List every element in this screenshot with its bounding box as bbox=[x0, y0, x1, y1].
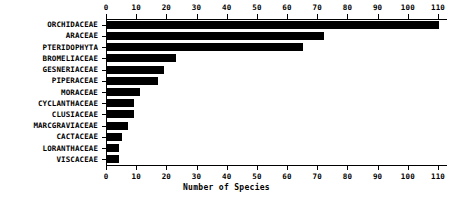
x-tick-label-top-100: 100 bbox=[401, 3, 415, 12]
x-tick-label-bottom-40: 40 bbox=[222, 172, 231, 181]
bar-moraceae bbox=[107, 88, 140, 96]
category-tick-cyclanthaceae bbox=[102, 103, 106, 104]
bar-chart: 0102030405060708090100110 ORCHIDACEAEARA… bbox=[0, 0, 453, 199]
x-tick-label-bottom-50: 50 bbox=[252, 172, 261, 181]
x-tick-mark-bottom-30 bbox=[197, 165, 198, 170]
x-tick-mark-bottom-90 bbox=[378, 165, 379, 170]
x-tick-label-top-70: 70 bbox=[313, 3, 322, 12]
category-tick-araceae bbox=[102, 36, 106, 37]
x-tick-label-top-10: 10 bbox=[131, 3, 140, 12]
bar-cactaceae bbox=[107, 133, 122, 141]
bar-marcgraviaceae bbox=[107, 122, 128, 130]
x-tick-label-bottom-0: 0 bbox=[104, 172, 109, 181]
x-tick-label-top-40: 40 bbox=[222, 3, 231, 12]
category-label-cactaceae: CACTACEAE bbox=[56, 132, 98, 141]
category-tick-piperaceae bbox=[102, 81, 106, 82]
x-tick-label-top-30: 30 bbox=[192, 3, 201, 12]
x-tick-label-bottom-60: 60 bbox=[282, 172, 291, 181]
x-tick-mark-bottom-100 bbox=[408, 165, 409, 170]
category-label-orchidaceae: ORCHIDACEAE bbox=[47, 20, 98, 29]
x-tick-label-top-0: 0 bbox=[104, 3, 109, 12]
x-tick-label-top-20: 20 bbox=[162, 3, 171, 12]
bar-clusiaceae bbox=[107, 110, 134, 118]
category-tick-marcgraviaceae bbox=[102, 126, 106, 127]
category-tick-clusiaceae bbox=[102, 114, 106, 115]
category-tick-bromeliaceae bbox=[102, 58, 106, 59]
bar-pteridophyta bbox=[107, 43, 303, 51]
category-label-moraceae: MORACEAE bbox=[61, 88, 98, 97]
bar-viscaceae bbox=[107, 155, 119, 163]
x-tick-label-bottom-80: 80 bbox=[343, 172, 352, 181]
category-tick-orchidaceae bbox=[102, 25, 106, 26]
x-tick-mark-bottom-10 bbox=[136, 165, 137, 170]
category-label-viscaceae: VISCACEAE bbox=[56, 155, 98, 164]
category-label-gesneriaceae: GESNERIACEAE bbox=[43, 65, 98, 74]
x-tick-label-bottom-10: 10 bbox=[131, 172, 140, 181]
bar-cyclanthaceae bbox=[107, 99, 134, 107]
x-tick-mark-bottom-80 bbox=[347, 165, 348, 170]
x-tick-label-top-90: 90 bbox=[373, 3, 382, 12]
bar-araceae bbox=[107, 32, 324, 40]
x-tick-label-bottom-30: 30 bbox=[192, 172, 201, 181]
x-tick-mark-bottom-20 bbox=[166, 165, 167, 170]
bar-piperaceae bbox=[107, 77, 158, 85]
x-tick-mark-bottom-70 bbox=[317, 165, 318, 170]
x-axis-title: Number of Species bbox=[0, 183, 453, 192]
x-tick-label-bottom-110: 110 bbox=[431, 172, 445, 181]
category-tick-moraceae bbox=[102, 92, 106, 93]
x-tick-label-bottom-70: 70 bbox=[313, 172, 322, 181]
x-tick-mark-bottom-0 bbox=[106, 165, 107, 170]
category-label-araceae: ARACEAE bbox=[66, 31, 98, 40]
category-label-marcgraviaceae: MARCGRAVIACEAE bbox=[33, 121, 98, 130]
bar-gesneriaceae bbox=[107, 66, 164, 74]
bar-loranthaceae bbox=[107, 144, 119, 152]
x-tick-label-bottom-90: 90 bbox=[373, 172, 382, 181]
x-tick-mark-bottom-110 bbox=[438, 165, 439, 170]
bar-orchidaceae bbox=[107, 21, 439, 29]
bar-bromeliaceae bbox=[107, 54, 176, 62]
x-tick-mark-bottom-60 bbox=[287, 165, 288, 170]
x-tick-mark-bottom-50 bbox=[257, 165, 258, 170]
category-tick-pteridophyta bbox=[102, 47, 106, 48]
x-tick-label-top-80: 80 bbox=[343, 3, 352, 12]
x-tick-label-bottom-100: 100 bbox=[401, 172, 415, 181]
category-tick-gesneriaceae bbox=[102, 70, 106, 71]
category-tick-viscaceae bbox=[102, 159, 106, 160]
category-label-loranthaceae: LORANTHACEAE bbox=[43, 144, 98, 153]
category-axis-labels: ORCHIDACEAEARACEAEPTERIDOPHYTABROMELIACE… bbox=[0, 0, 104, 199]
category-tick-loranthaceae bbox=[102, 148, 106, 149]
x-tick-mark-bottom-40 bbox=[227, 165, 228, 170]
category-label-cyclanthaceae: CYCLANTHACEAE bbox=[38, 99, 98, 108]
x-tick-label-top-50: 50 bbox=[252, 3, 261, 12]
category-label-piperaceae: PIPERACEAE bbox=[52, 76, 98, 85]
category-tick-cactaceae bbox=[102, 137, 106, 138]
category-label-bromeliaceae: BROMELIACEAE bbox=[43, 54, 98, 63]
axis-bottom-line bbox=[106, 165, 447, 166]
x-tick-label-top-110: 110 bbox=[431, 3, 445, 12]
category-label-pteridophyta: PTERIDOPHYTA bbox=[43, 43, 98, 52]
x-tick-label-bottom-20: 20 bbox=[162, 172, 171, 181]
x-tick-label-top-60: 60 bbox=[282, 3, 291, 12]
category-label-clusiaceae: CLUSIACEAE bbox=[52, 110, 98, 119]
